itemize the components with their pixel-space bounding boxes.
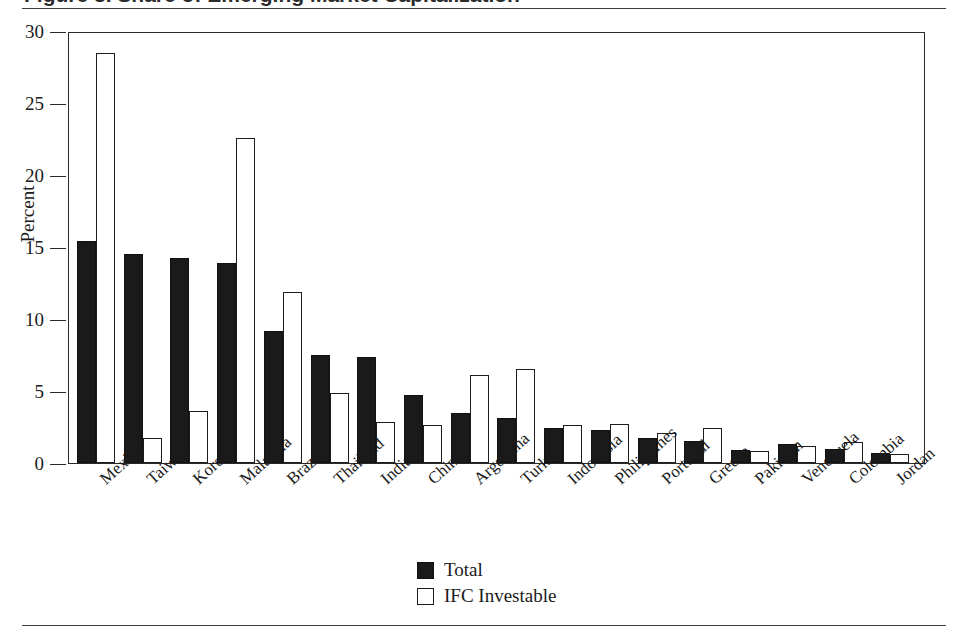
bar-ifc-thailand bbox=[330, 393, 349, 463]
figure-container: Figure 3. Share of Emerging Market Capit… bbox=[0, 0, 964, 638]
y-tick-label-25: 25 bbox=[0, 94, 44, 113]
legend-label-ifc-investable: IFC Investable bbox=[444, 585, 556, 607]
y-tick-30 bbox=[50, 32, 66, 33]
bar-group bbox=[825, 33, 872, 463]
legend: Total IFC Investable bbox=[417, 557, 556, 609]
y-tick-25 bbox=[50, 104, 66, 105]
top-rule bbox=[22, 8, 946, 9]
bar-group bbox=[731, 33, 778, 463]
bar-group bbox=[217, 33, 264, 463]
bar-group bbox=[451, 33, 498, 463]
bar-group bbox=[124, 33, 171, 463]
bar-group bbox=[404, 33, 451, 463]
bar-group bbox=[684, 33, 731, 463]
x-axis-labels: MexicoTaiwanKoreaMalaysiaBrazilThailandI… bbox=[68, 464, 925, 556]
bar-ifc-indonesia bbox=[563, 425, 582, 463]
bar-group bbox=[638, 33, 685, 463]
bar-groups bbox=[69, 33, 924, 463]
figure-title-text: Figure 3. Share of Emerging Market Capit… bbox=[24, 0, 520, 7]
y-tick-label-0: 0 bbox=[0, 454, 44, 473]
y-tick-label-20: 20 bbox=[0, 166, 44, 185]
bar-ifc-mexico bbox=[96, 53, 115, 463]
legend-swatch-total-icon bbox=[417, 562, 434, 579]
bar-group bbox=[264, 33, 311, 463]
legend-label-total: Total bbox=[444, 559, 483, 581]
y-tick-5 bbox=[50, 392, 66, 393]
bar-group bbox=[871, 33, 918, 463]
y-tick-15 bbox=[50, 248, 66, 249]
bar-group bbox=[357, 33, 404, 463]
bar-ifc-argentina bbox=[470, 375, 489, 463]
y-tick-10 bbox=[50, 320, 66, 321]
figure-title-clipped: Figure 3. Share of Emerging Market Capit… bbox=[22, 0, 622, 8]
y-tick-label-30: 30 bbox=[0, 22, 44, 41]
legend-item-total: Total bbox=[417, 557, 556, 583]
y-tick-label-15: 15 bbox=[0, 238, 44, 257]
bar-total-malaysia bbox=[217, 263, 236, 463]
bar-group bbox=[497, 33, 544, 463]
bar-group bbox=[778, 33, 825, 463]
y-tick-0 bbox=[50, 464, 66, 465]
bar-ifc-malaysia bbox=[236, 138, 255, 463]
y-tick-20 bbox=[50, 176, 66, 177]
bar-total-taiwan bbox=[124, 254, 143, 463]
y-tick-label-10: 10 bbox=[0, 310, 44, 329]
bar-group bbox=[170, 33, 217, 463]
bar-group bbox=[591, 33, 638, 463]
bar-group bbox=[311, 33, 358, 463]
bar-total-korea bbox=[170, 258, 189, 463]
bar-total-china bbox=[404, 395, 423, 463]
legend-swatch-ifc-icon bbox=[417, 588, 434, 605]
legend-item-ifc-investable: IFC Investable bbox=[417, 583, 556, 609]
bar-group bbox=[544, 33, 591, 463]
bottom-rule bbox=[22, 625, 946, 626]
bar-total-mexico bbox=[77, 241, 96, 463]
bar-ifc-china bbox=[423, 425, 442, 463]
bar-group bbox=[77, 33, 124, 463]
y-tick-label-5: 5 bbox=[0, 382, 44, 401]
plot-area bbox=[68, 32, 925, 464]
